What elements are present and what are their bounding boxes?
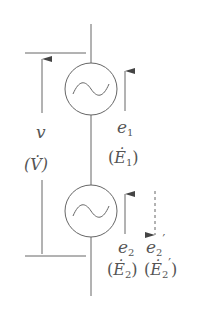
circuit-diagram: v (V̇) e1 (Ė1) e2 e2′ (Ė2) (Ė2′) [0,0,197,309]
label-e2-prime: e2′ [146,233,165,258]
label-V-phasor: (V̇) [24,155,48,174]
label-v: v [36,122,46,142]
label-E2-phasor: (Ė2) [107,259,138,280]
ac-source-icon [65,63,117,115]
ac-source-icon [65,185,117,237]
label-E2-prime-phasor: (Ė2′) [144,257,177,280]
label-E1-phasor: (Ė1) [108,147,139,168]
label-e1: e1 [117,117,133,138]
label-e2: e2 [118,237,134,258]
